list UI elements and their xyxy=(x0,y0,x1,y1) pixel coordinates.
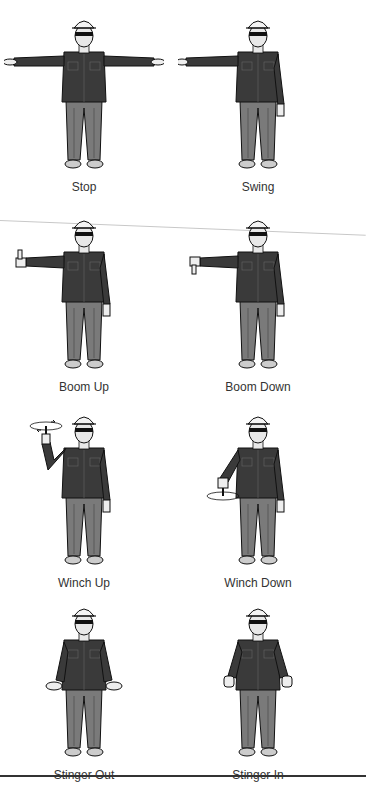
winch-up-signal-figure xyxy=(4,404,164,574)
signal-label: Winch Down xyxy=(178,576,338,590)
signal-stinger-out: Stinger Out xyxy=(4,596,164,786)
signal-boom-down: Boom Down xyxy=(178,208,338,398)
signal-winch-up: Winch Up xyxy=(4,404,164,594)
signal-label: Swing xyxy=(178,180,338,194)
signal-label: Boom Up xyxy=(4,380,164,394)
signal-label: Winch Up xyxy=(4,576,164,590)
signal-boom-up: Boom Up xyxy=(4,208,164,398)
stinger-out-signal-figure xyxy=(4,596,164,766)
signal-label: Stop xyxy=(4,180,164,194)
signal-stop: Stop xyxy=(4,8,164,198)
signal-stinger-in: Stinger In xyxy=(178,596,338,786)
signal-label: Boom Down xyxy=(178,380,338,394)
boom-down-signal-figure xyxy=(178,208,338,378)
bottom-rule xyxy=(0,775,366,777)
signal-swing: Swing xyxy=(178,8,338,198)
stop-signal-figure xyxy=(4,8,164,178)
boom-up-signal-figure xyxy=(4,208,164,378)
winch-down-signal-figure xyxy=(178,404,338,574)
signal-winch-down: Winch Down xyxy=(178,404,338,594)
swing-signal-figure xyxy=(178,8,338,178)
stinger-in-signal-figure xyxy=(178,596,338,766)
